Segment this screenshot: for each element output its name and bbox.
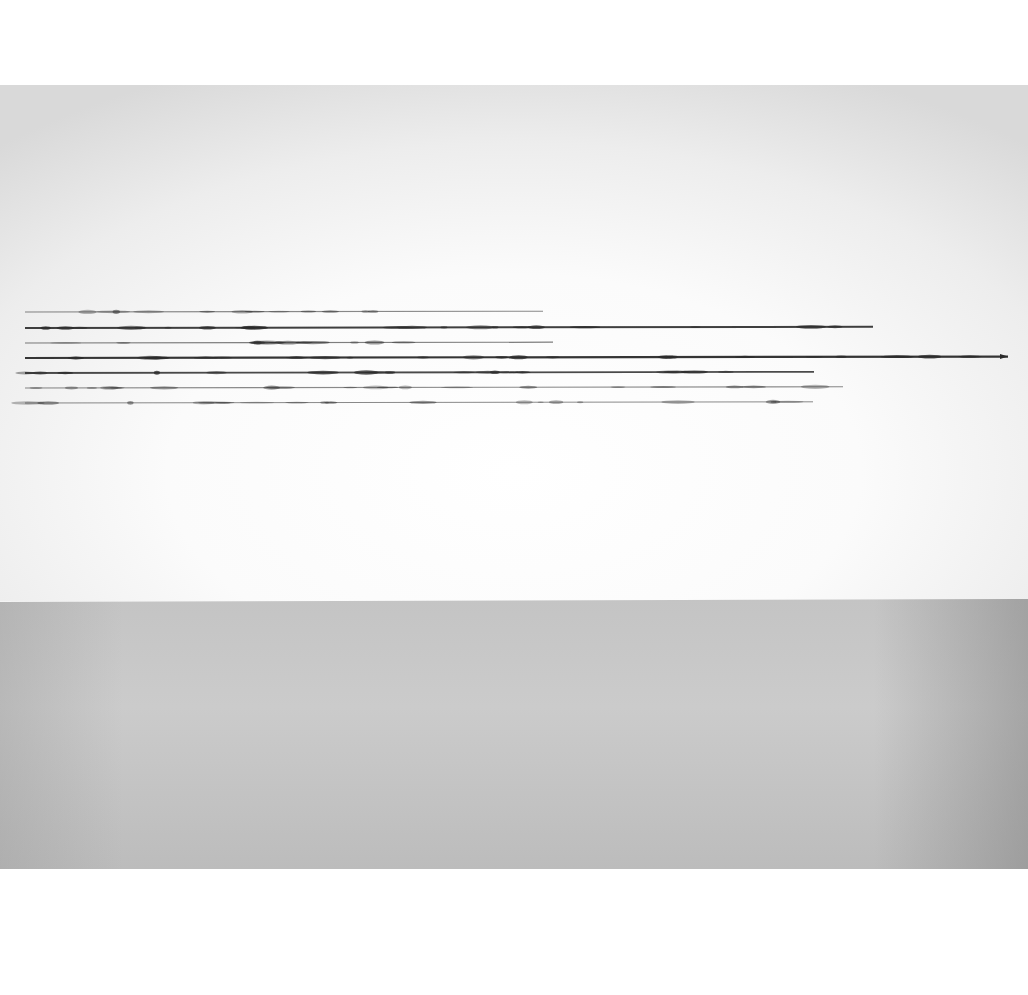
drawn-lines (0, 0, 1028, 995)
drawn-line (25, 327, 873, 328)
drawn-line (25, 387, 843, 388)
arrow-tip-icon (1000, 354, 1008, 359)
